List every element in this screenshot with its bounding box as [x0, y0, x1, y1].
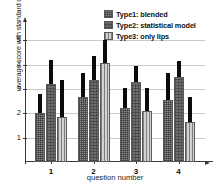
y-tick-mark: [23, 138, 27, 139]
error-bar-type1-q1: [38, 94, 42, 113]
y-tick-label: 1: [9, 134, 21, 142]
bar-type2-q1: [46, 84, 56, 162]
bar-type1-q4: [163, 100, 173, 162]
error-bar-type1-q2: [81, 73, 85, 97]
legend-swatch-icon: [104, 32, 113, 40]
legend-label: Type1: blended: [116, 10, 168, 19]
bar-type2-q2: [89, 80, 99, 162]
x-axis-arrow-icon: [205, 161, 210, 165]
error-bar-type3-q2: [103, 40, 107, 63]
y-tick-label: 5: [9, 36, 21, 44]
legend-swatch-icon: [104, 10, 113, 18]
error-bar-type1-q4: [166, 73, 170, 100]
legend-item-type2[interactable]: Type2: statistical model: [104, 20, 218, 31]
legend-item-type3[interactable]: Type3: only lips: [104, 31, 218, 42]
error-bar-type2-q2: [92, 56, 96, 80]
bar-chart: average score with standard deviation 12…: [0, 0, 220, 187]
bar-type3-q1: [57, 117, 67, 162]
error-bar-type1-q3: [123, 88, 127, 109]
y-tick-label: 3: [9, 85, 21, 93]
legend: Type1: blendedType2: statistical modelTy…: [104, 9, 218, 42]
y-tick-mark: [23, 65, 27, 66]
error-bar-type3-q4: [188, 97, 192, 121]
legend-item-type1[interactable]: Type1: blended: [104, 9, 218, 20]
legend-swatch-icon: [104, 21, 113, 29]
bar-type3-q3: [142, 111, 152, 162]
error-bar-type3-q3: [145, 88, 149, 111]
error-bar-type2-q3: [134, 66, 138, 82]
y-tick-mark: [23, 89, 27, 90]
y-tick-mark: [23, 113, 27, 114]
y-tick-label: 2: [9, 109, 21, 117]
y-axis-line: [25, 22, 26, 164]
bar-type1-q3: [120, 108, 130, 162]
bar-type1-q1: [35, 113, 45, 162]
bar-type2-q3: [131, 82, 141, 162]
bar-type3-q4: [185, 122, 195, 162]
y-tick-label: 4: [9, 61, 21, 69]
x-axis-title: question number: [25, 173, 205, 182]
bar-type3-q2: [100, 63, 110, 162]
y-axis-arrow-icon: [23, 17, 27, 22]
legend-label: Type2: statistical model: [116, 21, 196, 30]
error-bar-type2-q4: [177, 61, 181, 77]
error-bar-type3-q1: [60, 80, 64, 117]
y-tick-mark: [23, 40, 27, 41]
bar-type2-q4: [174, 77, 184, 162]
legend-label: Type3: only lips: [116, 32, 169, 41]
error-bar-type2-q1: [49, 60, 53, 84]
plot-area: 12345 1234: [25, 28, 205, 162]
bar-type1-q2: [78, 97, 88, 162]
